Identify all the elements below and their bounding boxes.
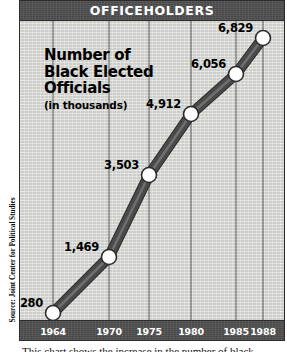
x-tick-1970: 1970 xyxy=(96,325,122,336)
headline-line-2: Black Elected xyxy=(44,63,153,81)
value-label-1964: 280 xyxy=(20,296,43,310)
value-label-1975: 3,503 xyxy=(104,158,139,172)
plot-area: Number of Black Elected Officials (in th… xyxy=(20,21,284,321)
x-tick-1988: 1988 xyxy=(250,325,276,336)
data-point-1975 xyxy=(142,168,157,183)
banner-title: OFFICEHOLDERS xyxy=(90,3,214,18)
x-axis-band: 196419701975198019851988 xyxy=(20,320,284,340)
value-label-1985: 6,056 xyxy=(191,57,226,71)
chart-figure: Source: Joint Center for Political Studi… xyxy=(0,0,287,352)
x-tick-1980: 1980 xyxy=(178,325,204,336)
data-point-1964 xyxy=(46,306,61,321)
value-label-1988: 6,829 xyxy=(218,21,253,35)
value-label-1970: 1,469 xyxy=(64,240,99,254)
x-tick-1975: 1975 xyxy=(136,325,162,336)
source-credit: Source: Joint Center for Political Studi… xyxy=(8,123,17,323)
headline-line-3: Officials xyxy=(44,79,110,97)
x-tick-1985: 1985 xyxy=(223,325,249,336)
x-tick-1964: 1964 xyxy=(40,325,66,336)
value-label-1980: 4,912 xyxy=(146,97,181,111)
chart-frame: OFFICEHOLDERS Number of Black Elected Of… xyxy=(19,0,285,341)
caption-text: This chart shows the increase in the num… xyxy=(22,345,284,352)
data-point-1985 xyxy=(229,67,244,82)
data-point-1970 xyxy=(102,250,117,265)
chart-banner: OFFICEHOLDERS xyxy=(20,1,284,21)
data-point-1988 xyxy=(256,31,271,46)
headline-line-1: Number of xyxy=(44,46,131,64)
